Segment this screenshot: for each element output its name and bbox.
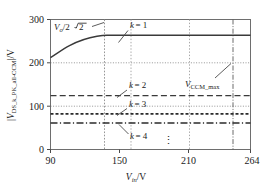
chart-figure: 90 150 210 264 0 100 200 300 Vin/V |VDS_…: [0, 0, 265, 190]
xtick-label-90: 90: [46, 155, 56, 166]
k4-rest: = 4: [136, 131, 148, 141]
ytick-label-0: 0: [39, 144, 44, 155]
ytick-label-200: 200: [29, 57, 44, 68]
vccm-sub: CCM_max: [191, 83, 221, 90]
annotation-k2: k= 2: [129, 80, 146, 90]
ytick-label-100: 100: [29, 101, 44, 112]
ellipsis-marker: ⋮: [163, 134, 174, 146]
k1-rest: = 1: [136, 20, 148, 30]
y-axis-title-unit: /V: [6, 49, 16, 59]
radicand-2: 2: [79, 22, 84, 32]
ytick-label-300: 300: [29, 14, 44, 25]
annotation-k4: k= 4: [130, 131, 148, 141]
chart-svg: 90 150 210 264 0 100 200 300 Vin/V |VDS_…: [0, 0, 265, 190]
annotation-k1: k= 1: [130, 20, 147, 30]
svg-text:Vin/V: Vin/V: [126, 172, 147, 183]
svg-text:Vo/2: Vo/2: [54, 22, 70, 33]
annotation-k3: k= 3: [129, 99, 147, 109]
y-axis-title-sub: DS_k_PK_all-CCM: [10, 60, 17, 113]
xtick-label-264: 264: [245, 155, 260, 166]
x-axis-title: Vin/V: [126, 172, 147, 183]
k2-rest: = 2: [135, 80, 147, 90]
vo-label-rest: /2: [63, 22, 70, 32]
x-axis-title-unit: /V: [137, 172, 147, 182]
xtick-label-210: 210: [181, 155, 196, 166]
k3-rest: = 3: [135, 99, 147, 109]
xtick-label-150: 150: [112, 155, 127, 166]
